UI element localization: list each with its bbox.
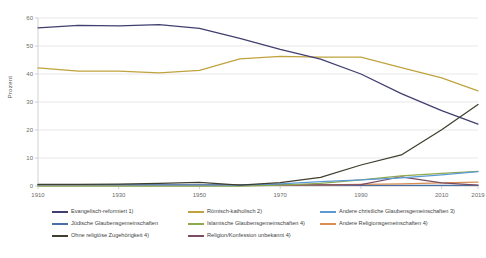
legend-color-swatch — [52, 223, 68, 225]
series-line — [38, 105, 478, 186]
legend-color-swatch — [188, 235, 204, 237]
y-axis-label: Prozent — [6, 85, 13, 99]
legend-item[interactable]: Andere christliche Glaubensgemeinschafte… — [320, 206, 482, 218]
series-line — [38, 25, 478, 124]
y-tick-label: 50 — [26, 43, 33, 49]
series-lines — [38, 25, 478, 186]
legend-item[interactable]: Römisch-katholisch 2) — [188, 206, 320, 218]
series-line — [38, 56, 478, 90]
chart-legend: Evangelisch-reformiert 1)Römisch-katholi… — [52, 206, 482, 242]
legend-item-label: Ohne religiöse Zugehörigkeit 4) — [71, 233, 149, 239]
legend-color-swatch — [188, 211, 204, 213]
legend-item-label: Religion/Konfession unbekannt 4) — [207, 233, 291, 239]
y-tick-label: 0 — [30, 183, 34, 189]
legend-color-swatch — [52, 211, 68, 213]
y-tick-label: 30 — [26, 99, 33, 105]
x-tick-label: 1950 — [193, 192, 207, 198]
legend-item[interactable]: Evangelisch-reformiert 1) — [52, 206, 188, 218]
legend-item-label: Römisch-katholisch 2) — [207, 209, 262, 215]
x-tick-label: 1990 — [354, 192, 368, 198]
x-tick-label: 1970 — [274, 192, 288, 198]
legend-color-swatch — [188, 223, 204, 225]
legend-item[interactable]: Jüdische Glaubensgemeinschaften — [52, 218, 188, 230]
y-tick-label: 40 — [26, 71, 33, 77]
legend-item-label: Andere christliche Glaubensgemeinschafte… — [339, 209, 455, 215]
x-tick-label: 2010 — [435, 192, 449, 198]
y-tick-label: 20 — [26, 127, 33, 133]
y-tick-label: 60 — [26, 15, 33, 21]
legend-item-label: Andere Religionsgemeinschaften 4) — [339, 221, 428, 227]
y-tick-label: 10 — [26, 155, 33, 161]
plot-area: 0102030405060 19101930195019701990201020… — [0, 0, 486, 210]
chart-svg: 0102030405060 19101930195019701990201020… — [0, 0, 486, 210]
legend-item[interactable]: Andere Religionsgemeinschaften 4) — [320, 218, 482, 230]
legend-item[interactable]: Religion/Konfession unbekannt 4) — [188, 230, 320, 242]
y-axis-ticks: 0102030405060 — [26, 15, 38, 189]
legend-color-swatch — [52, 235, 68, 237]
x-tick-label: 2019 — [471, 192, 485, 198]
x-axis-ticks: 1910193019501970199020102019 — [31, 186, 485, 198]
legend-item-label: Islamische Glaubensgemeinschaften 4) — [207, 221, 305, 227]
religion-affiliation-line-chart: 0102030405060 19101930195019701990201020… — [0, 0, 486, 258]
legend-color-swatch — [320, 211, 336, 213]
legend-item-label: Jüdische Glaubensgemeinschaften — [71, 221, 158, 227]
legend-item[interactable]: Ohne religiöse Zugehörigkeit 4) — [52, 230, 188, 242]
legend-item[interactable]: Islamische Glaubensgemeinschaften 4) — [188, 218, 320, 230]
legend-color-swatch — [320, 223, 336, 225]
x-tick-label: 1930 — [112, 192, 126, 198]
x-tick-label: 1910 — [31, 192, 45, 198]
legend-item-label: Evangelisch-reformiert 1) — [71, 209, 134, 215]
